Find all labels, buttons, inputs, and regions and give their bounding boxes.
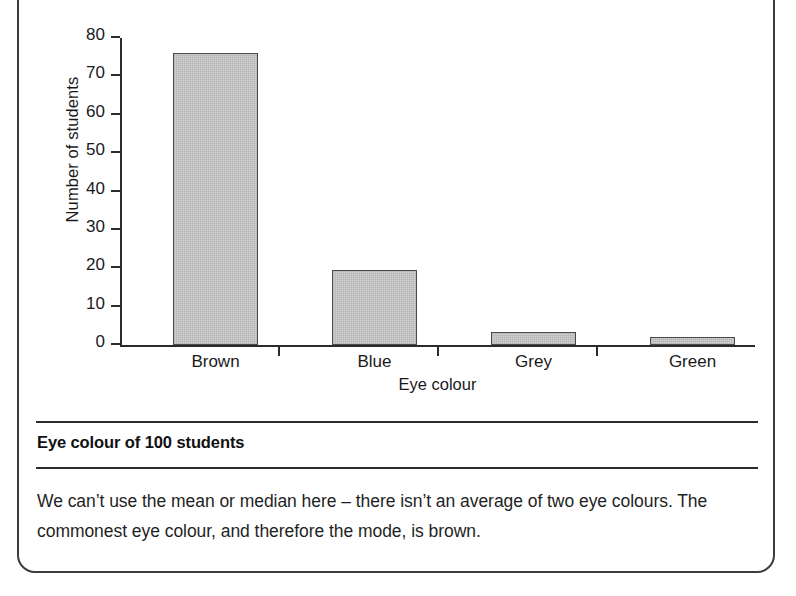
- bar-chart: Number of students 0 10 20 30 40 50: [30, 20, 760, 410]
- bar-brown: [173, 53, 258, 345]
- y-axis-line: [120, 38, 122, 345]
- y-tick: 70: [111, 74, 120, 76]
- y-tick-label: 50: [86, 140, 105, 160]
- x-tick: [278, 347, 280, 356]
- y-tick: 20: [111, 266, 120, 268]
- x-category-label: Green: [650, 352, 735, 372]
- y-tick-label: 70: [86, 63, 105, 83]
- y-tick-label: 20: [86, 255, 105, 275]
- y-tick: 30: [111, 228, 120, 230]
- caption-heading: Eye colour of 100 students: [37, 433, 737, 452]
- y-axis-title: Number of students: [63, 40, 82, 260]
- explanation-text: We can’t use the mean or median here – t…: [37, 486, 739, 546]
- bar-blue: [332, 270, 417, 345]
- x-category-label: Blue: [332, 352, 417, 372]
- y-tick-label: 10: [86, 294, 105, 314]
- y-tick-label: 0: [96, 332, 105, 352]
- x-category-label: Grey: [491, 352, 576, 372]
- y-tick: 40: [111, 190, 120, 192]
- x-axis-title: Eye colour: [120, 375, 755, 394]
- x-tick: [437, 347, 439, 356]
- caption-rule-bottom: [36, 467, 758, 469]
- y-tick: 80: [111, 36, 120, 38]
- caption-rule-top: [36, 421, 758, 423]
- bar-grey: [491, 332, 576, 345]
- y-tick: 60: [111, 113, 120, 115]
- y-tick-label: 40: [86, 179, 105, 199]
- y-tick-label: 80: [86, 25, 105, 45]
- y-tick: 50: [111, 151, 120, 153]
- figure-page: Number of students 0 10 20 30 40 50: [0, 0, 796, 596]
- plot-area: 0 10 20 30 40 50 60 70 8: [120, 38, 755, 345]
- y-tick-label: 30: [86, 217, 105, 237]
- y-tick: 0: [111, 343, 120, 345]
- y-tick-label: 60: [86, 102, 105, 122]
- x-tick: [596, 347, 598, 356]
- y-tick: 10: [111, 305, 120, 307]
- x-category-label: Brown: [173, 352, 258, 372]
- bar-green: [650, 337, 735, 345]
